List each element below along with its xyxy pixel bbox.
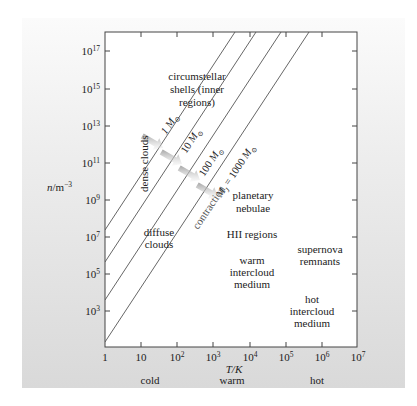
label-dense-clouds: dense clouds — [138, 135, 150, 192]
x-tick-label: 107 — [351, 350, 366, 363]
phase-diagram-chart: 1 M⊙ 10 M⊙ 100 M⊙ MJ = 1000 M⊙ circumste… — [0, 0, 417, 406]
label-supernova-remnants: supernova — [297, 243, 342, 255]
label-supernova-remnants: remnants — [300, 255, 340, 267]
label-circumstellar: regions) — [179, 96, 215, 109]
x-tick-label: 10 — [136, 351, 148, 363]
y-tick-label: 103 — [85, 304, 100, 317]
y-tick-label: 1011 — [82, 156, 100, 169]
y-tick-label: 107 — [85, 230, 100, 243]
label-warm-intercloud: intercloud — [230, 266, 275, 278]
y-tick-label: 105 — [85, 267, 100, 280]
regime-warm: warm — [219, 374, 244, 386]
label-circumstellar: circumstellar — [168, 70, 226, 82]
label-hot-intercloud: medium — [294, 317, 330, 329]
label-warm-intercloud: medium — [234, 278, 270, 290]
regime-cold: cold — [141, 374, 160, 386]
label-diffuse-clouds: diffuse — [144, 226, 174, 238]
x-tick-label: 106 — [315, 350, 330, 363]
y-tick-label: 1013 — [82, 119, 101, 132]
y-tick-label: 109 — [85, 193, 100, 206]
label-diffuse-clouds: clouds — [145, 238, 174, 250]
x-tick-label: 104 — [243, 350, 258, 363]
label-circumstellar: shells (inner — [170, 83, 224, 96]
label-warm-intercloud: warm — [239, 254, 264, 266]
x-tick-label: 103 — [206, 350, 221, 363]
label-hii-regions: HII regions — [227, 228, 277, 240]
y-tick-label: 1017 — [82, 44, 101, 57]
x-tick-label: 102 — [170, 350, 185, 363]
y-tick-label: 1015 — [82, 82, 101, 95]
temperature-regimes: cold warm hot — [141, 374, 325, 386]
label-planetary-nebulae: planetary — [233, 189, 274, 201]
x-tick-label: 105 — [279, 350, 294, 363]
x-tick-labels: 1 10 102 103 104 105 106 107 — [102, 350, 365, 363]
label-hot-intercloud: intercloud — [290, 305, 335, 317]
y-axis-label: n/m−3 — [47, 180, 72, 193]
label-hot-intercloud: hot — [305, 293, 319, 305]
y-tick-labels: 1017 1015 1013 1011 109 107 105 103 — [82, 44, 101, 317]
x-tick-label: 1 — [102, 351, 108, 363]
regime-hot: hot — [310, 374, 324, 386]
label-planetary-nebulae: nebulae — [236, 202, 270, 214]
